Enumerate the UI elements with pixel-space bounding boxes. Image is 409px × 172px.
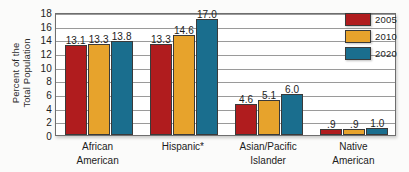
bar-group bbox=[141, 14, 226, 135]
x-axis-label-3: NativeAmerican bbox=[332, 140, 374, 167]
y-axis-tick-labels: 024681012141618 bbox=[28, 13, 52, 136]
legend-label-2010: 2010 bbox=[375, 31, 397, 42]
bar bbox=[366, 128, 388, 135]
y-axis-tick-8: 8 bbox=[46, 76, 52, 87]
bar bbox=[196, 19, 218, 135]
legend-swatch-2005 bbox=[345, 13, 371, 26]
bar bbox=[258, 100, 280, 135]
legend-swatch-2020 bbox=[345, 47, 371, 60]
x-axis-label-line: American bbox=[77, 154, 119, 168]
bar-group bbox=[227, 14, 312, 135]
bar bbox=[111, 41, 133, 135]
x-axis-label-line: Asian/Pacific bbox=[240, 140, 297, 154]
bar bbox=[65, 45, 87, 135]
bar-chart: Percent of the Total Population 02468101… bbox=[0, 0, 409, 172]
x-axis-label-line: Hispanic* bbox=[162, 140, 204, 154]
x-axis-label-line: American bbox=[332, 154, 374, 168]
legend-item-2005: 2005 bbox=[345, 12, 407, 27]
bar bbox=[150, 44, 172, 135]
bar bbox=[235, 104, 257, 135]
y-axis-tick-18: 18 bbox=[40, 8, 52, 19]
legend-swatch-2010 bbox=[345, 30, 371, 43]
legend-item-2010: 2010 bbox=[345, 29, 407, 44]
x-axis-category-labels: AfricanAmericanHispanic*Asian/PacificIsl… bbox=[55, 140, 396, 172]
x-axis-label-0: AfricanAmerican bbox=[77, 140, 119, 167]
y-axis-tick-0: 0 bbox=[46, 131, 52, 142]
y-axis-tick-6: 6 bbox=[46, 90, 52, 101]
y-axis-tick-2: 2 bbox=[46, 117, 52, 128]
legend-label-2020: 2020 bbox=[375, 48, 397, 59]
x-axis-label-2: Asian/PacificIslander bbox=[240, 140, 297, 167]
bar-group bbox=[56, 14, 141, 135]
x-axis-label-1: Hispanic* bbox=[162, 140, 204, 154]
y-axis-tick-12: 12 bbox=[40, 49, 52, 60]
chart-legend: 200520102020 bbox=[345, 12, 407, 63]
bar bbox=[88, 44, 110, 135]
x-axis-label-line: Islander bbox=[240, 154, 297, 168]
x-axis-label-line: Native bbox=[332, 140, 374, 154]
bar bbox=[173, 35, 195, 135]
y-axis-tick-4: 4 bbox=[46, 103, 52, 114]
bar bbox=[320, 129, 342, 135]
y-axis-tick-16: 16 bbox=[40, 21, 52, 32]
legend-item-2020: 2020 bbox=[345, 46, 407, 61]
bar bbox=[281, 94, 303, 135]
legend-label-2005: 2005 bbox=[375, 14, 397, 25]
bar bbox=[343, 129, 365, 135]
y-axis-tick-10: 10 bbox=[40, 62, 52, 73]
x-axis-label-line: African bbox=[77, 140, 119, 154]
y-axis-tick-14: 14 bbox=[40, 35, 52, 46]
